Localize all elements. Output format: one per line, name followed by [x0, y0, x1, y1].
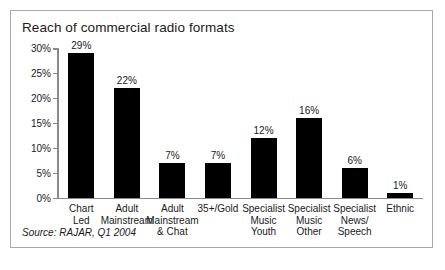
y-tick-label: 0%	[37, 192, 51, 203]
bar-slot: 16%	[286, 47, 332, 198]
bar-value-label: 22%	[117, 75, 137, 86]
y-tick-label: 30%	[31, 43, 51, 54]
bar[interactable]	[114, 88, 140, 198]
bar-value-label: 12%	[254, 125, 274, 136]
x-axis-label-line: News/	[325, 215, 385, 227]
bar-value-label: 7%	[165, 150, 179, 161]
y-tick-mark	[53, 48, 57, 50]
bar-slot: 6%	[332, 47, 378, 198]
bar-slot: 12%	[241, 47, 287, 198]
bar[interactable]	[205, 163, 231, 198]
plot-area: 30%25%20%15%10%5%0% 29%22%7%7%12%16%6%1%	[57, 48, 423, 199]
x-axis-label-line: & Chat	[142, 226, 202, 238]
bar-slot: 7%	[195, 47, 241, 198]
bar-value-label: 29%	[71, 40, 91, 51]
bar-slot: 29%	[58, 47, 104, 198]
y-tick-label: 10%	[31, 142, 51, 153]
bar-value-label: 7%	[211, 150, 225, 161]
y-tick-mark	[53, 198, 57, 200]
y-tick-mark	[53, 123, 57, 125]
chart-figure: Reach of commercial radio formats 30%25%…	[10, 10, 433, 248]
bar-slot: 22%	[104, 47, 150, 198]
y-tick-mark	[53, 148, 57, 150]
y-tick-mark	[53, 73, 57, 75]
bar[interactable]	[387, 193, 413, 198]
bar[interactable]	[342, 168, 368, 198]
x-axis-label: Ethnic	[370, 203, 430, 215]
y-tick-label: 25%	[31, 67, 51, 78]
x-axis-label-line: Mainstream	[142, 215, 202, 227]
bar[interactable]	[251, 138, 277, 198]
bar-value-label: 6%	[347, 155, 361, 166]
y-tick-label: 5%	[37, 167, 51, 178]
y-tick-mark	[53, 173, 57, 175]
y-tick-label: 15%	[31, 117, 51, 128]
x-axis-label-line: Ethnic	[370, 203, 430, 215]
bar-slot: 7%	[149, 47, 195, 198]
bar[interactable]	[296, 118, 322, 198]
y-tick-mark	[53, 98, 57, 100]
y-tick-label: 20%	[31, 92, 51, 103]
bar-slot: 1%	[377, 47, 423, 198]
bar-value-label: 16%	[299, 105, 319, 116]
bar-value-label: 1%	[393, 180, 407, 191]
x-axis-line	[57, 198, 423, 200]
chart-title: Reach of commercial radio formats	[22, 20, 235, 35]
source-note: Source: RAJAR, Q1 2004	[22, 227, 136, 238]
bar[interactable]	[68, 53, 94, 198]
bar[interactable]	[159, 163, 185, 198]
x-axis-label-line: Speech	[325, 226, 385, 238]
